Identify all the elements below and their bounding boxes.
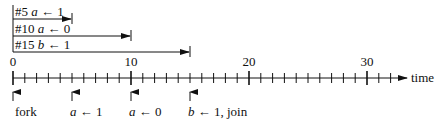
tick-label: 20 xyxy=(243,54,256,69)
tick-label: 0 xyxy=(10,54,17,69)
delay-label: #15 b ← 1 xyxy=(15,37,70,52)
event-markers: forka ← 1a ← 0b ← 1, join xyxy=(13,92,248,119)
tick-label: 10 xyxy=(125,54,138,69)
delay-bar: #15 b ← 1 xyxy=(13,37,190,57)
event-marker: a ← 0 xyxy=(129,92,162,119)
event-label: a ← 1 xyxy=(70,104,103,119)
delay-label: #10 a ← 0 xyxy=(15,21,70,36)
delay-label: #5 a ← 1 xyxy=(15,4,64,19)
time-axis: 0102030time xyxy=(10,54,435,85)
fork-join-timeline-diagram: #5 a ← 1#10 a ← 0#15 b ← 1 0102030time f… xyxy=(0,0,438,124)
event-marker: fork xyxy=(13,92,37,119)
event-marker: a ← 1 xyxy=(70,92,103,119)
axis-label-time: time xyxy=(411,70,434,85)
event-marker: b ← 1, join xyxy=(188,92,248,119)
event-label: a ← 0 xyxy=(129,104,162,119)
event-label: b ← 1, join xyxy=(188,104,248,119)
tick-label: 30 xyxy=(361,54,374,69)
delay-bars: #5 a ← 1#10 a ← 0#15 b ← 1 xyxy=(13,4,190,57)
event-label: fork xyxy=(15,104,37,119)
